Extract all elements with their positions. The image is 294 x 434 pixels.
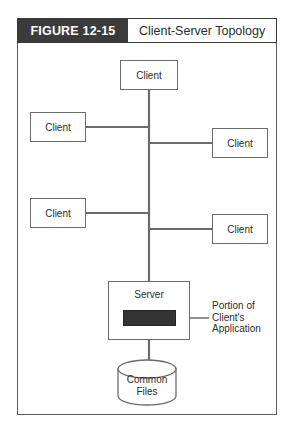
annotation-portion-of-client-application: Portion of Client's Application: [212, 300, 286, 335]
server-application-chip: [123, 310, 176, 326]
node-server[interactable]: Server: [108, 281, 190, 340]
figure-header: FIGURE 12-15 Client-Server Topology: [17, 18, 277, 43]
annotation-line-3: Application: [212, 323, 286, 335]
figure-root: FIGURE 12-15 Client-Server Topology: [0, 0, 294, 434]
node-client-left-1[interactable]: Client: [30, 112, 86, 142]
node-client-right-1[interactable]: Client: [212, 128, 268, 158]
common-files-label-line1: Common: [117, 374, 177, 386]
node-client-right-2[interactable]: Client: [212, 214, 268, 244]
common-files-label: Common Files: [117, 374, 177, 397]
figure-title: Client-Server Topology: [128, 19, 276, 42]
common-files-label-line2: Files: [117, 386, 177, 398]
node-client-left-2[interactable]: Client: [30, 198, 86, 228]
node-common-files[interactable]: Common Files: [117, 361, 177, 406]
figure-number-label: FIGURE 12-15: [18, 19, 128, 42]
annotation-line-2: Client's: [212, 312, 286, 324]
node-client-top[interactable]: Client: [120, 60, 178, 90]
annotation-line-1: Portion of: [212, 300, 286, 312]
server-label: Server: [109, 289, 189, 300]
